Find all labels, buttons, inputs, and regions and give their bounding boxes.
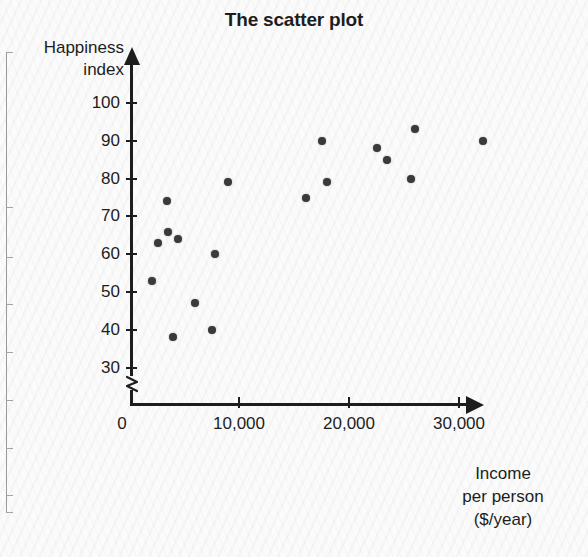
data-point xyxy=(211,250,219,258)
x-tick-label: 10,000 xyxy=(194,414,284,434)
y-tick-mark xyxy=(126,329,137,331)
y-tick-mark xyxy=(126,291,137,293)
x-tick-mark xyxy=(458,397,460,408)
data-point xyxy=(163,197,171,205)
x-tick-label: 30,000 xyxy=(414,414,504,434)
y-tick-mark xyxy=(126,253,137,255)
y-tick-label: 100 xyxy=(74,93,120,113)
y-tick-mark xyxy=(126,102,137,104)
y-axis-arrowhead-icon xyxy=(124,47,140,65)
y-tick-label: 80 xyxy=(74,169,120,189)
y-tick-label: 90 xyxy=(74,131,120,151)
y-tick-label: 50 xyxy=(74,282,120,302)
axis-break-icon xyxy=(124,375,140,393)
plot-area: 30405060708090100 010,00020,00030,000 xyxy=(0,0,588,557)
y-tick-mark xyxy=(126,178,137,180)
y-tick-label: 40 xyxy=(74,320,120,340)
data-point xyxy=(383,156,391,164)
y-tick-label: 70 xyxy=(74,206,120,226)
data-point xyxy=(411,125,419,133)
data-point xyxy=(154,239,162,247)
data-point xyxy=(169,333,177,341)
data-point xyxy=(373,144,381,152)
data-point xyxy=(148,277,156,285)
data-point xyxy=(479,137,487,145)
x-axis-line xyxy=(130,403,470,406)
data-point xyxy=(323,178,331,186)
x-tick-label: 0 xyxy=(77,414,167,434)
x-tick-mark xyxy=(348,397,350,408)
data-point xyxy=(208,326,216,334)
data-point xyxy=(302,194,310,202)
x-tick-mark xyxy=(238,397,240,408)
x-axis-arrowhead-icon xyxy=(466,396,484,414)
scatter-plot-figure: The scatter plot Happiness index Income … xyxy=(0,0,588,557)
y-tick-label: 60 xyxy=(74,244,120,264)
y-tick-label: 30 xyxy=(74,358,120,378)
data-point xyxy=(164,228,172,236)
data-point xyxy=(318,137,326,145)
data-point xyxy=(191,299,199,307)
data-point xyxy=(224,178,232,186)
y-tick-mark xyxy=(126,367,137,369)
x-tick-label: 20,000 xyxy=(304,414,394,434)
y-tick-mark xyxy=(126,215,137,217)
y-tick-mark xyxy=(126,140,137,142)
data-point xyxy=(407,175,415,183)
data-point xyxy=(174,235,182,243)
